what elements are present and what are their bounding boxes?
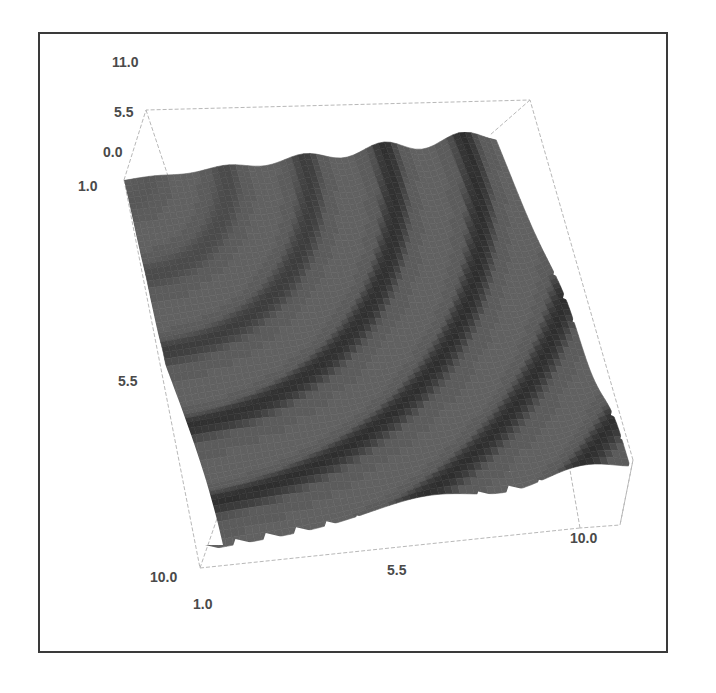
surface-mesh [124, 132, 630, 550]
z-tick-5-5: 5.5 [114, 104, 133, 120]
surface-plot [0, 0, 716, 693]
y-tick-1: 1.0 [78, 178, 97, 194]
x-tick-1: 1.0 [193, 596, 212, 612]
x-tick-10: 10.0 [570, 530, 597, 546]
y-tick-10: 10.0 [150, 569, 177, 585]
z-tick-0: 0.0 [103, 144, 122, 160]
x-tick-5-5: 5.5 [387, 562, 406, 578]
z-tick-11: 11.0 [112, 54, 138, 70]
y-tick-5-5: 5.5 [118, 373, 137, 389]
